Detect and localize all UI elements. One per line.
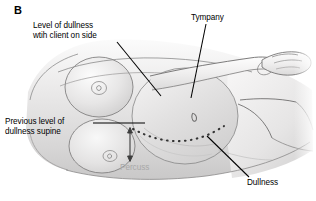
figure-panel-b: B Level of dullness wtih client on side … [0,0,316,201]
panel-letter: B [14,4,22,16]
label-previous-level-of-dullness: Previous level of dullness supine [5,117,64,137]
label-level-of-dullness: Level of dullness wtih client on side [33,21,97,41]
label-dullness: Dullness [247,178,278,188]
label-percuss: Percuss [120,163,149,173]
body-forms [26,40,313,180]
label-tympany: Tympany [191,13,224,23]
